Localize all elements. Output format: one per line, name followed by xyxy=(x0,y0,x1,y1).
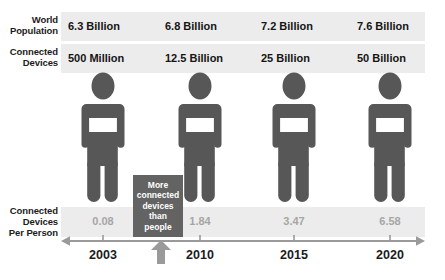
world-population-value-2015: 7.2 Billion xyxy=(261,20,313,32)
row-label-connected-devices-line1: Connected xyxy=(0,46,58,57)
row-label-connected-devices-line2: Devices xyxy=(0,57,58,68)
connected-devices-value-2010: 12.5 Billion xyxy=(165,52,223,64)
row-label-world-population: World Population xyxy=(0,14,58,36)
world-population-value-2003: 6.3 Billion xyxy=(68,20,120,32)
callout-line-1: More xyxy=(137,180,180,191)
devices-per-person-value-2020: 6.58 xyxy=(355,215,425,227)
callout-line-2: connected xyxy=(137,190,180,201)
world-population-value-2020: 7.6 Billion xyxy=(357,20,409,32)
world-population-value-2010: 6.8 Billion xyxy=(165,20,217,32)
connected-devices-value-2015: 25 Billion xyxy=(261,52,310,64)
iot-growth-infographic: World Population Connected Devices Conne… xyxy=(0,0,445,280)
callout-line-5: people xyxy=(137,222,180,233)
row-label-connected-devices: Connected Devices xyxy=(0,46,58,68)
row-label-world-population-line2: Population xyxy=(0,25,58,36)
callout-line-3: devices xyxy=(137,201,180,212)
axis-year-2015: 2015 xyxy=(259,248,329,262)
connected-devices-value-2003: 500 Million xyxy=(68,52,124,64)
devices-per-person-value-2003: 0.08 xyxy=(68,215,138,227)
callout-line-4: than xyxy=(137,211,180,222)
row-label-devices-per-person-line3: Per Person xyxy=(0,227,58,238)
person-pictogram-2020 xyxy=(364,72,416,202)
row-label-devices-per-person-line2: Devices xyxy=(0,216,58,227)
person-pictogram-2003 xyxy=(77,72,129,202)
axis-year-2003: 2003 xyxy=(68,248,138,262)
axis-year-2010: 2010 xyxy=(165,248,235,262)
callout-more-devices-than-people: More connected devices than people xyxy=(133,175,183,237)
person-pictogram-2015 xyxy=(268,72,320,202)
row-label-world-population-line1: World xyxy=(0,14,58,25)
devices-per-person-value-2015: 3.47 xyxy=(259,215,329,227)
row-label-devices-per-person: Connected Devices Per Person xyxy=(0,205,58,238)
connected-devices-value-2020: 50 Billion xyxy=(357,52,406,64)
axis-year-2020: 2020 xyxy=(355,248,425,262)
row-label-devices-per-person-line1: Connected xyxy=(0,205,58,216)
